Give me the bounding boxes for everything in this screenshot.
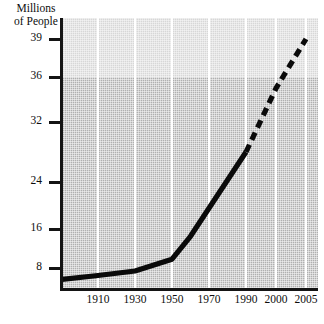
y-tick-36 [49,76,60,79]
y-axis-title: Millions of People [4,2,68,27]
y-tick-label-16: 16 [2,221,42,233]
y-tick-label-24: 24 [2,174,42,186]
y-tick-label-39: 39 [2,31,42,43]
y-tick-32 [49,121,60,124]
x-tick-label-1950: 1950 [161,293,184,305]
y-tick-label-8: 8 [2,260,42,272]
x-tick-label-1930: 1930 [124,293,147,305]
plot-area [62,18,318,288]
y-tick-label-36: 36 [2,69,42,81]
y-tick-24 [49,181,60,184]
historical-line [62,152,246,279]
y-axis-title-line-2: of People [4,15,68,28]
projected-line [246,39,306,152]
chart-figure: Millions of People 81624323639 191019301… [0,0,324,324]
x-axis-line [60,288,318,291]
y-axis-line [60,18,63,289]
series-lines [62,18,318,288]
y-tick-39 [49,38,60,41]
x-tick-label-1990: 1990 [235,293,258,305]
y-tick-16 [49,228,60,231]
x-tick-label-2000: 2000 [265,293,288,305]
y-axis-title-line-1: Millions [4,2,68,15]
x-tick-label-1970: 1970 [198,293,221,305]
y-tick-label-32: 32 [2,114,42,126]
x-tick-label-2005: 2005 [295,293,318,305]
y-tick-8 [49,267,60,270]
x-tick-label-1910: 1910 [87,293,110,305]
